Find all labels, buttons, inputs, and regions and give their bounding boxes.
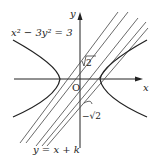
lower-intercept-label: −√2 — [82, 111, 101, 121]
upper-intercept-label: 2 — [86, 58, 92, 68]
equation-label: x² − 3y² = 3 — [11, 27, 73, 38]
y-axis-arrow — [78, 12, 83, 20]
hyperbola-diagram: 2 x² − 3y² = 3 y = x + k x y O −√2 — [0, 0, 156, 159]
y-axis-label: y — [69, 8, 76, 19]
origin-label: O — [72, 82, 80, 93]
x-axis-arrow — [135, 77, 143, 82]
x-axis-label: x — [143, 82, 149, 93]
line-label: y = x + k — [32, 144, 80, 155]
